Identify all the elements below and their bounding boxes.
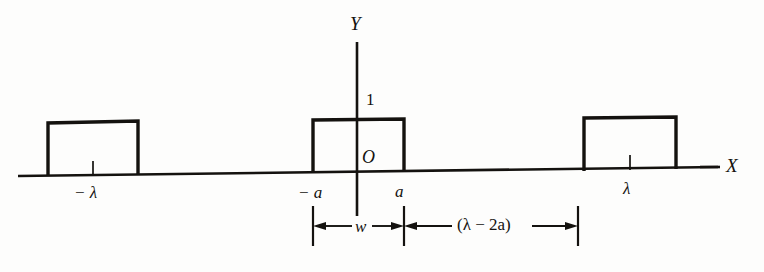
- arrow-gap-right: [565, 222, 578, 230]
- dimension-label-gap: (λ − 2a): [457, 216, 511, 233]
- label-neg-a: − a: [298, 184, 322, 201]
- y-axis-label: Y: [350, 14, 361, 33]
- label-pos-a: a: [395, 183, 404, 200]
- label-neg-lambda: − λ: [74, 184, 97, 201]
- label-pos-lambda: λ: [623, 180, 630, 197]
- origin-label: O: [362, 148, 375, 166]
- dimension-label-w: w: [355, 218, 366, 235]
- figure-container: Y X 1 O − λ λ − a a w (λ − 2a): [0, 0, 764, 272]
- x-axis-line: [18, 167, 718, 176]
- pulse-center: [313, 119, 404, 173]
- arrow-w-right: [391, 222, 404, 230]
- arrow-w-left: [313, 222, 326, 230]
- amplitude-label: 1: [366, 91, 375, 108]
- x-axis-label: X: [726, 156, 738, 175]
- arrow-gap-left: [404, 222, 417, 230]
- pulse-train-diagram: [0, 0, 764, 272]
